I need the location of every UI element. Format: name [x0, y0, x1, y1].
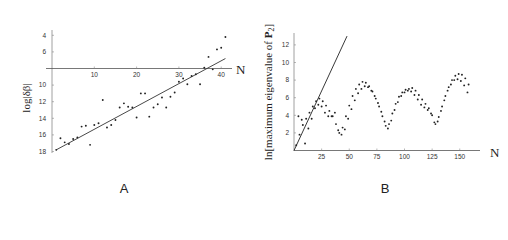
data-point	[314, 107, 316, 109]
data-point	[165, 107, 167, 109]
y-tick-label: 10	[39, 81, 47, 88]
data-point	[76, 136, 78, 138]
panel-a-x-label: N	[236, 62, 246, 77]
data-point	[358, 84, 360, 86]
data-point	[311, 118, 313, 120]
data-point	[390, 120, 392, 122]
data-point	[81, 126, 83, 128]
data-point	[119, 107, 121, 109]
data-point	[334, 112, 336, 114]
y-tick-label: 10	[282, 59, 290, 66]
data-point	[355, 88, 357, 90]
data-point	[425, 103, 427, 105]
x-tick-label: 40	[218, 71, 226, 78]
data-point	[401, 91, 403, 93]
data-point	[224, 36, 226, 38]
data-point	[415, 90, 417, 92]
data-point	[98, 122, 100, 124]
data-point	[305, 118, 307, 120]
data-point	[384, 121, 386, 123]
data-point	[208, 56, 210, 58]
data-point	[341, 134, 343, 136]
data-point	[360, 88, 362, 90]
data-point	[437, 121, 439, 123]
data-point	[417, 99, 419, 101]
data-point	[72, 138, 74, 140]
x-tick-label: 125	[427, 153, 438, 160]
panel-a-y-label: log|δβ|	[20, 83, 32, 112]
data-point	[423, 106, 425, 108]
data-point	[430, 113, 432, 115]
data-point	[144, 92, 146, 94]
x-tick-label: 30	[175, 71, 183, 78]
data-point	[411, 87, 413, 89]
data-point	[325, 105, 327, 107]
data-point	[203, 67, 205, 69]
data-point	[385, 125, 387, 127]
data-point	[153, 107, 155, 109]
data-point	[304, 143, 306, 145]
y-tick-label: 2	[285, 129, 289, 136]
data-point	[370, 90, 372, 92]
panel-b-chart: 24681012 255075100125150 N ln[maximum ei…	[262, 24, 500, 196]
y-tick-label: 14	[39, 115, 47, 122]
data-point	[297, 115, 299, 117]
data-point	[64, 141, 66, 143]
data-point	[395, 103, 397, 105]
data-point	[216, 48, 218, 50]
data-point	[345, 115, 347, 117]
data-point	[441, 106, 443, 108]
x-tick-label: 75	[373, 153, 381, 160]
data-point	[307, 128, 309, 130]
data-point	[295, 144, 297, 146]
data-point	[85, 125, 87, 127]
data-point	[387, 128, 389, 130]
y-tick-label: 4	[42, 32, 46, 39]
data-point	[447, 90, 449, 92]
x-tick-label: 50	[346, 153, 354, 160]
data-point	[377, 102, 379, 104]
data-point	[195, 73, 197, 75]
data-point	[89, 144, 91, 146]
data-point	[123, 102, 125, 104]
data-point	[448, 86, 450, 88]
data-point	[174, 92, 176, 94]
data-point	[410, 91, 412, 93]
data-point	[431, 114, 433, 116]
data-point	[220, 47, 222, 49]
data-point	[404, 91, 406, 93]
data-point	[315, 100, 317, 102]
data-point	[428, 107, 430, 109]
panel-a-label: A	[120, 181, 129, 196]
y-tick-label: 16	[39, 131, 47, 138]
x-tick-label: 150	[454, 153, 465, 160]
data-point	[388, 123, 390, 125]
data-point	[335, 123, 337, 125]
y-tick-label: 6	[42, 48, 46, 55]
y-tick-label: 8	[285, 76, 289, 83]
data-point	[378, 106, 380, 108]
data-point	[318, 98, 320, 100]
data-point	[331, 115, 333, 117]
data-point	[427, 109, 429, 111]
data-point	[178, 81, 180, 83]
data-point	[443, 99, 445, 101]
data-point	[367, 86, 369, 88]
data-point	[102, 99, 104, 101]
data-point	[444, 95, 446, 97]
data-point	[348, 105, 350, 107]
data-point	[344, 128, 346, 130]
data-point	[440, 110, 442, 112]
data-point	[327, 115, 329, 117]
data-point	[421, 99, 423, 101]
data-point	[186, 83, 188, 85]
data-point	[453, 79, 455, 81]
data-point	[68, 143, 70, 145]
data-point	[357, 92, 359, 94]
data-point	[451, 79, 453, 81]
data-point	[328, 110, 330, 112]
data-point	[433, 121, 435, 123]
data-point	[374, 95, 376, 97]
data-point	[55, 149, 57, 151]
data-point	[115, 119, 117, 121]
